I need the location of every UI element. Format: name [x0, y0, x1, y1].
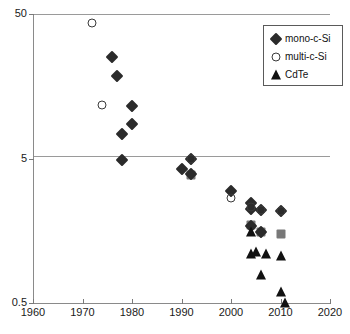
data-point-mono-c-si: [126, 100, 139, 113]
data-point-cdte: [256, 270, 266, 280]
data-point-mono-c-si: [116, 128, 129, 141]
x-tick-label: 1960: [11, 306, 55, 318]
open-circle-icon: [269, 51, 282, 64]
x-tick-mark: [83, 299, 84, 304]
data-point-cdte: [280, 298, 290, 308]
chart-legend: mono-c-Si multi-c-Si CdTe: [263, 25, 343, 86]
legend-item-multi-c-si: multi-c-Si: [269, 48, 342, 66]
y-tick-mark: [29, 159, 34, 160]
x-tick-label: 2000: [209, 306, 253, 318]
gridline-mid: [33, 156, 330, 157]
data-point-multi-c-si: [276, 207, 285, 216]
x-tick-mark: [33, 299, 34, 304]
y-tick-label: 5: [21, 153, 27, 164]
legend-label: mono-c-Si: [285, 34, 331, 44]
data-point-cdte: [251, 247, 261, 257]
x-tick-mark: [330, 299, 331, 304]
data-point-mono-c-si: [106, 51, 119, 64]
data-point-multi-c-si: [187, 154, 196, 163]
scatter-chart: 0.5550 1960197019801990200020102020 mono…: [0, 0, 350, 334]
filled-diamond-icon: [269, 33, 282, 46]
x-tick-mark: [231, 299, 232, 304]
data-point-cdte: [276, 251, 286, 261]
legend-item-cdte: CdTe: [269, 66, 342, 84]
x-tick-label: 1970: [61, 306, 105, 318]
data-point-overlap: [276, 230, 285, 239]
data-point-multi-c-si: [88, 19, 97, 28]
x-tick-mark: [132, 299, 133, 304]
data-point-mono-c-si: [126, 118, 139, 131]
data-point-multi-c-si: [227, 194, 236, 203]
gridline-top: [33, 14, 330, 15]
x-tick-label: 2010: [259, 306, 303, 318]
data-point-mono-c-si: [111, 70, 124, 83]
data-point-cdte: [261, 248, 271, 258]
x-tick-label: 2020: [308, 306, 350, 318]
legend-label: multi-c-Si: [285, 52, 327, 62]
data-point-multi-c-si: [256, 206, 265, 215]
x-tick-label: 1990: [160, 306, 204, 318]
x-tick-mark: [182, 299, 183, 304]
legend-label: CdTe: [285, 70, 308, 80]
filled-triangle-icon: [269, 69, 282, 82]
y-tick-mark: [29, 14, 34, 15]
data-point-cdte: [276, 286, 286, 296]
data-point-multi-c-si: [246, 203, 255, 212]
x-tick-label: 1980: [110, 306, 154, 318]
data-point-multi-c-si: [98, 100, 107, 109]
y-tick-label: 50: [15, 8, 27, 19]
legend-item-mono-c-si: mono-c-Si: [269, 30, 342, 48]
data-point-cdte: [246, 226, 256, 236]
